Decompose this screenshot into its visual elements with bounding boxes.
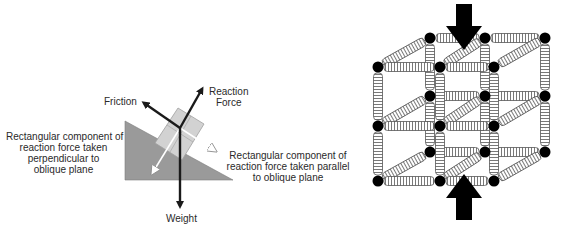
lattice-node (540, 33, 551, 44)
spring-lattice-diagram (0, 0, 562, 234)
spring (541, 102, 550, 146)
spring (436, 132, 445, 175)
spring (490, 73, 499, 120)
lattice-node (425, 91, 436, 102)
springs (374, 34, 550, 186)
spring (384, 122, 434, 131)
lattice-node (425, 33, 436, 44)
lattice-node (435, 176, 446, 187)
lattice-node (373, 176, 384, 187)
lattice-node (540, 147, 551, 158)
lattice-node (489, 176, 500, 187)
lattice-node (489, 121, 500, 132)
lattice-node (480, 147, 491, 158)
spring (436, 73, 445, 120)
spring (384, 177, 434, 186)
spring (374, 73, 383, 120)
spring (374, 132, 383, 175)
lattice-node (489, 62, 500, 73)
spring (446, 122, 488, 131)
lattice-node (373, 62, 384, 73)
lattice-node (480, 91, 491, 102)
lattice-node (435, 121, 446, 132)
spring (490, 132, 499, 175)
lattice-node (480, 33, 491, 44)
figure: Friction Reaction Force Rectangular comp… (0, 0, 562, 234)
lattice-node (540, 91, 551, 102)
lattice-node (425, 147, 436, 158)
lattice-node (435, 62, 446, 73)
spring (541, 44, 550, 90)
lattice-node (373, 121, 384, 132)
spring (384, 63, 434, 72)
spring (446, 63, 488, 72)
